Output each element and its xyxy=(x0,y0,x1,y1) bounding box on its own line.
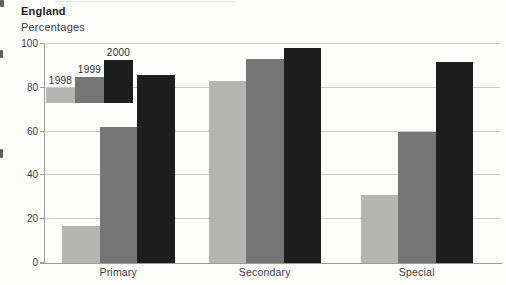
legend-swatch-1999 xyxy=(75,77,104,103)
category-label-special: Special xyxy=(372,266,462,278)
legend-label-1998: 1998 xyxy=(44,75,78,86)
bar-1999-primary xyxy=(100,127,138,263)
bar-2000-special xyxy=(436,62,474,263)
y-tick-label: 100 xyxy=(14,39,38,49)
chart-page: England Percentages 020406080100PrimaryS… xyxy=(0,0,506,285)
y-axis-tick xyxy=(40,131,44,132)
y-tick-label: 80 xyxy=(14,83,38,93)
scan-artifact xyxy=(0,149,3,158)
y-tick-label: 0 xyxy=(14,258,38,268)
y-tick-label: 20 xyxy=(14,214,38,224)
y-axis-tick xyxy=(40,174,44,175)
y-tick-label: 40 xyxy=(14,170,38,180)
chart-units-label: Percentages xyxy=(21,21,85,33)
legend-swatch-1998 xyxy=(46,88,75,103)
x-axis-line xyxy=(40,263,502,265)
gridline xyxy=(44,43,500,44)
plot-area: 020406080100PrimarySecondarySpecial19981… xyxy=(44,44,502,263)
legend-label-1999: 1999 xyxy=(73,64,107,75)
category-label-secondary: Secondary xyxy=(220,266,310,278)
bar-2000-primary xyxy=(137,75,175,263)
bar-2000-secondary xyxy=(284,48,322,263)
scan-streak xyxy=(55,1,235,2)
bar-1998-special xyxy=(361,195,399,263)
legend-label-2000: 2000 xyxy=(102,47,136,58)
y-axis-tick xyxy=(40,218,44,219)
bar-1999-special xyxy=(398,132,436,263)
bar-1999-secondary xyxy=(246,59,284,263)
y-tick-label: 60 xyxy=(14,127,38,137)
y-axis-tick xyxy=(40,87,44,88)
category-label-primary: Primary xyxy=(73,266,163,278)
y-axis-tick xyxy=(40,43,44,44)
legend-swatch-2000 xyxy=(104,60,133,103)
scan-artifact xyxy=(0,50,3,58)
chart-title: England xyxy=(21,5,66,17)
scan-artifact xyxy=(0,0,4,7)
bar-1998-secondary xyxy=(209,81,247,263)
bar-1998-primary xyxy=(62,226,100,263)
